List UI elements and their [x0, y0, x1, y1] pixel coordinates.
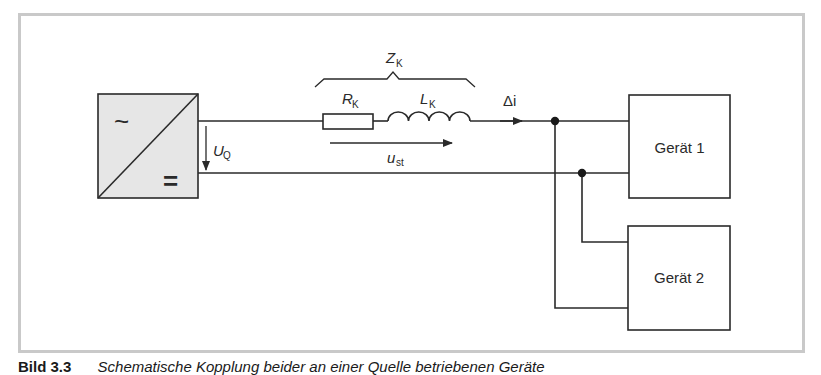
caption-number: Bild 3.3 [18, 358, 71, 375]
converter-block: ~ = [98, 94, 198, 198]
device-2: Gerät 2 [628, 226, 730, 330]
device-1: Gerät 1 [629, 95, 730, 198]
junction-dot-top [551, 117, 559, 125]
impedance-label: Z [385, 49, 396, 66]
resistor: R K [323, 90, 373, 129]
voltage-drop-label: u [387, 149, 396, 166]
device-1-label: Gerät 1 [654, 139, 704, 156]
impedance-label-sub: K [396, 58, 403, 69]
source-voltage-label-sub: Q [223, 150, 231, 161]
wire-branch-bottom-to-device2 [582, 173, 628, 242]
resistor-label-sub: K [352, 99, 359, 110]
ac-symbol: ~ [114, 106, 129, 136]
voltage-drop-label-sub: st [396, 157, 404, 168]
inductor-label-sub: K [429, 99, 436, 110]
device-2-label: Gerät 2 [654, 269, 704, 286]
inductor: L K [388, 90, 470, 121]
wires [198, 121, 629, 308]
caption-text: Schematische Kopplung beider an einer Qu… [98, 358, 545, 375]
wire-branch-top-to-device2 [555, 121, 628, 308]
figure-caption: Bild 3.3 Schematische Kopplung beider an… [18, 358, 545, 375]
dc-symbol: = [163, 166, 178, 196]
junction-dot-bottom [578, 169, 586, 177]
impedance-brace: Z K [315, 49, 475, 87]
inductor-label: L [420, 90, 428, 107]
current-label: Δi [503, 92, 516, 109]
